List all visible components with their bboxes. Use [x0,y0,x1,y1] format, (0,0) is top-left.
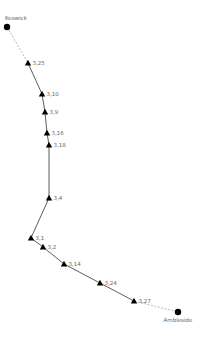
waypoint-label: 3,2 [48,244,57,250]
route-polyline [28,63,134,301]
waypoint-label: 3,14 [69,261,82,267]
triangle-marker-icon [42,109,48,115]
triangle-marker-icon [28,235,34,241]
waypoint[interactable]: 3,1 [28,235,44,241]
triangle-marker-icon [131,298,137,304]
triangle-marker-icon [39,91,45,97]
waypoint-label: 3,1 [36,235,45,241]
town-dot-icon [4,24,10,30]
triangle-marker-icon [46,142,52,148]
town-label: Ambleside [164,317,193,323]
waypoint[interactable]: 3,24 [97,280,117,286]
waypoint-markers: 3,253,103,93,163,183,43,13,23,143,243,27 [25,60,151,304]
waypoint[interactable]: 3,2 [40,244,56,250]
waypoint[interactable]: 3,4 [46,195,63,201]
triangle-marker-icon [25,60,31,66]
route-map: 3,253,103,93,163,183,43,13,23,143,243,27… [0,0,208,349]
waypoint[interactable]: 3,25 [25,60,45,66]
town-label: Keswick [5,15,28,21]
triangle-marker-icon [97,280,103,286]
waypoint-label: 3,24 [105,280,118,286]
triangle-marker-icon [44,130,50,136]
dashed-connector-keswick [7,27,28,63]
waypoint-label: 3,16 [52,130,65,136]
route-dashed-segments [7,27,178,312]
waypoint[interactable]: 3,27 [131,298,151,304]
waypoint-label: 3,25 [33,60,46,66]
triangle-marker-icon [40,244,46,250]
triangle-marker-icon [46,195,52,201]
route-solid-segment [28,63,134,301]
waypoint-label: 3,27 [139,298,152,304]
waypoint-label: 3,18 [54,142,67,148]
waypoint-label: 3,9 [50,109,59,115]
waypoint-label: 3,4 [54,195,63,201]
waypoint[interactable]: 3,16 [44,130,64,136]
endpoint-keswick[interactable]: Keswick [4,15,28,30]
waypoint[interactable]: 3,14 [61,261,81,267]
waypoint[interactable]: 3,18 [46,142,66,148]
endpoint-ambleside[interactable]: Ambleside [164,309,193,323]
town-dot-icon [175,309,181,315]
triangle-marker-icon [61,261,67,267]
waypoint-label: 3,10 [47,91,60,97]
waypoint[interactable]: 3,10 [39,91,59,97]
